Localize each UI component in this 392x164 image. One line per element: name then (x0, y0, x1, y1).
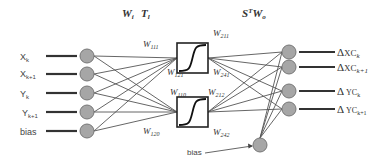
input-weights-label: Wi (122, 7, 134, 21)
connection-input-4-hidden-1 (94, 112, 177, 131)
connection-input-1-hidden-1 (94, 74, 177, 112)
input-node-yk (80, 86, 94, 100)
input-node-xk1 (80, 67, 94, 81)
output-label-xck1: ΔXCk+1 (337, 61, 368, 75)
output-label-xck: ΔXCk (337, 46, 361, 60)
output-bias-arrow (205, 146, 252, 153)
input-label-yk: Yk (20, 89, 30, 100)
connection-input-4-hidden-0 (94, 58, 177, 131)
output-label-yck: ΔYCk (337, 85, 360, 98)
input-node-yk1 (80, 105, 94, 119)
connection-hidden-1-output-3 (208, 109, 282, 112)
output-bias-label: bias (187, 148, 202, 157)
weight-label-w120: W120 (143, 126, 160, 137)
output-node-xck (282, 45, 296, 59)
weight-label-w211: W211 (213, 28, 229, 39)
sigmoid-unit-2 (177, 97, 208, 127)
output-node-yck1 (282, 102, 296, 116)
arrowhead-icon (248, 144, 253, 149)
input-label-bias: bias (20, 127, 37, 137)
threshold-label: Tl (141, 7, 150, 21)
output-label-yck1: ΔYCk+1 (337, 103, 367, 116)
weight-label-w111: W111 (143, 39, 159, 50)
input-node-xk (80, 49, 94, 63)
input-label-xk1: Xk+1 (20, 69, 37, 80)
sigmoid-unit-1 (177, 43, 208, 73)
connection-input-2-hidden-1 (94, 93, 177, 112)
input-node-bias (80, 124, 94, 138)
connection-hidden-0-output-0 (208, 52, 282, 58)
output-node-yck (282, 84, 296, 98)
input-label-yk1: Yk+1 (22, 108, 39, 119)
neural-network-diagram: Wi Tl STWo Xk Xk+1 Yk Yk+1 bias W111 W12… (0, 0, 392, 164)
connection-input-0-hidden-0 (94, 56, 177, 58)
connection-input-2-hidden-0 (94, 58, 177, 93)
connection-bias-output-1 (260, 67, 282, 138)
weight-label-w212: W212 (208, 87, 225, 98)
output-weights-label: STWo (242, 7, 266, 21)
weight-label-w110: W110 (170, 87, 186, 98)
weight-label-w242: W242 (213, 127, 230, 138)
output-bias-node (253, 138, 267, 152)
output-node-xck1 (282, 60, 296, 74)
weight-label-w241: W241 (213, 67, 230, 78)
input-label-xk: Xk (20, 52, 30, 63)
connection-bias-output-2 (260, 91, 282, 138)
